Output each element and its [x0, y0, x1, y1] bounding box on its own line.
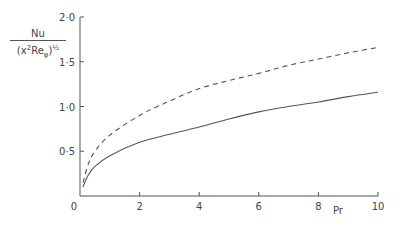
ticks: [80, 17, 378, 196]
x-tick-label: 0: [71, 201, 77, 212]
den-exponent: ½: [52, 44, 59, 52]
y-tick-label: 1·0: [59, 102, 75, 113]
x-tick-label: 10: [372, 201, 385, 212]
tick-labels: 02468100·51·01·52·0: [59, 12, 384, 212]
den-re: Re: [31, 45, 44, 56]
axes: [80, 17, 378, 196]
y-tick-label: 0·5: [59, 146, 75, 157]
x-tick-label: 2: [136, 201, 142, 212]
series-dashed-line: [83, 47, 378, 182]
series-group: [83, 47, 378, 187]
x-tick-label: 6: [256, 201, 262, 212]
y-axis-label: Nu (x2Reφ)½: [4, 28, 72, 61]
y-axis-label-numerator: Nu: [10, 28, 66, 41]
x-tick-label: 8: [315, 201, 321, 212]
y-axis-label-denominator: (x2Reφ)½: [17, 42, 59, 61]
x-axis-label: Pr: [333, 205, 343, 216]
x-tick-label: 4: [196, 201, 202, 212]
series-solid-line: [83, 92, 378, 187]
den-open: (x: [17, 45, 27, 56]
y-tick-label: 2·0: [59, 12, 75, 23]
